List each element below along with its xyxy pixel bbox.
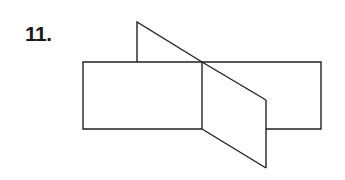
intersecting-planes-figure bbox=[0, 0, 345, 180]
